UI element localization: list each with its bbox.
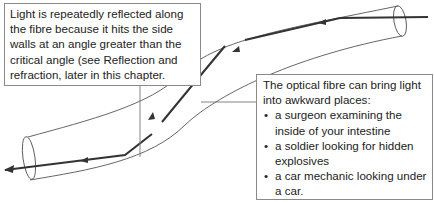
uses-list: a surgeon examining the inside of your i… xyxy=(263,107,427,198)
reflection-callout-text: Light is repeatedly reflected along the … xyxy=(10,6,195,82)
uses-callout: The optical fibre can bring light into a… xyxy=(256,74,433,200)
fibre-left-end xyxy=(20,136,38,180)
uses-list-item: a soldier looking for hidden explosives xyxy=(263,138,427,168)
uses-list-item: a car mechanic looking under a car. xyxy=(263,168,427,198)
leader-lines xyxy=(140,86,256,157)
reflection-callout: Light is repeatedly reflected along the … xyxy=(4,3,201,86)
fibre-right-end xyxy=(391,5,408,38)
arrow-icon xyxy=(148,112,155,120)
arrow-icon xyxy=(232,46,240,52)
uses-callout-intro: The optical fibre can bring light into a… xyxy=(263,77,427,107)
uses-list-item: a surgeon examining the inside of your i… xyxy=(263,107,427,137)
